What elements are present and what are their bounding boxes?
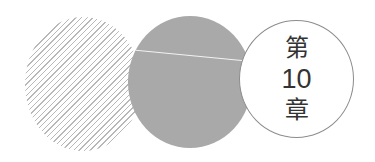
hatched-circle [25,17,141,151]
chapter-prefix: 第 [285,32,309,64]
divider-line [128,49,252,62]
chapter-suffix: 章 [285,94,309,126]
chapter-marker-graphic: 第 10 章 [0,0,375,162]
chapter-label-circle: 第 10 章 [239,20,354,138]
solid-gray-circle [128,16,252,148]
chapter-number: 10 [281,64,311,94]
